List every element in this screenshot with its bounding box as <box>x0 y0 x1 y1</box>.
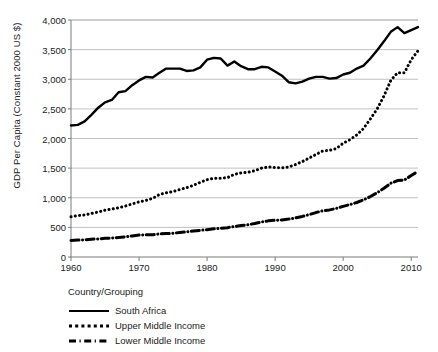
series-line-lower-middle-income <box>71 171 418 240</box>
legend-item[interactable]: South Africa <box>68 303 205 318</box>
x-tick-label: 1970 <box>128 262 149 273</box>
series-line-upper-middle-income <box>71 51 418 217</box>
legend-item[interactable]: Lower Middle Income <box>68 333 205 348</box>
legend-swatch-solid-icon <box>68 306 110 316</box>
chart-legend: Country/Grouping South AfricaUpper Middl… <box>68 286 205 348</box>
legend-swatch-dotted-icon <box>68 321 110 331</box>
x-tick-label: 2010 <box>401 262 422 273</box>
legend-label: South Africa <box>115 305 166 316</box>
legend-item[interactable]: Upper Middle Income <box>68 318 205 333</box>
chart-figure: GDP Per Capita (Constant 2000 US $) 0500… <box>0 0 438 352</box>
legend-label: Upper Middle Income <box>115 320 205 331</box>
plot-area <box>0 0 438 352</box>
legend-items: South AfricaUpper Middle IncomeLower Mid… <box>68 303 205 348</box>
legend-label: Lower Middle Income <box>115 335 205 346</box>
x-tick-label: 1960 <box>60 262 81 273</box>
x-tick-label: 1990 <box>265 262 286 273</box>
x-tick-label: 1980 <box>197 262 218 273</box>
series-line-south-africa <box>71 27 418 125</box>
x-tick-label: 2000 <box>333 262 354 273</box>
legend-title: Country/Grouping <box>68 286 205 297</box>
legend-swatch-dash-dot-icon <box>68 336 110 346</box>
